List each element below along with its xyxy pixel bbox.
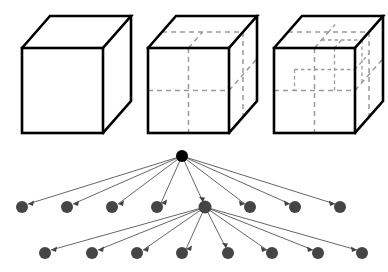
figure-root: [0, 0, 388, 272]
cube-level-1: [148, 16, 257, 133]
tree-node-l1-5[interactable]: [244, 201, 256, 213]
tree-node-l2-0[interactable]: [39, 247, 51, 259]
tree-node-l1-0[interactable]: [16, 201, 28, 213]
tree-edge-root-4: [182, 156, 203, 202]
tree-node-l1-1[interactable]: [61, 201, 73, 213]
tree-edge-branch-5: [205, 207, 267, 250]
tree-diagram-group: [16, 150, 368, 259]
cube-0-front-face: [22, 48, 103, 133]
tree-edge-branch-0: [51, 207, 205, 250]
cube-level-0: [22, 16, 131, 133]
cube-level-2: [274, 16, 383, 133]
tree-nodes-level-1: [16, 201, 346, 214]
tree-edge-root-7: [182, 156, 335, 204]
tree-edge-branch-6: [205, 207, 313, 250]
tree-node-l2-6[interactable]: [312, 247, 324, 259]
tree-node-root[interactable]: [176, 150, 188, 162]
tree-edge-root-3: [161, 156, 182, 203]
tree-edge-root-0: [28, 156, 182, 204]
tree-node-l1-4-branch[interactable]: [199, 201, 212, 214]
tree-node-l2-4[interactable]: [222, 247, 234, 259]
tree-node-l1-2[interactable]: [106, 201, 118, 213]
tree-node-l2-3[interactable]: [176, 247, 188, 259]
cube-row-group: [22, 16, 383, 133]
tree-node-l2-2[interactable]: [131, 247, 143, 259]
tree-node-l2-7[interactable]: [356, 247, 368, 259]
tree-node-l2-5[interactable]: [266, 247, 278, 259]
tree-nodes-level-2: [39, 247, 368, 259]
tree-node-l2-1[interactable]: [86, 247, 98, 259]
tree-node-l1-3[interactable]: [151, 201, 163, 213]
tree-arrowhead-b0: [51, 247, 57, 253]
tree-node-l1-6[interactable]: [289, 201, 301, 213]
tree-edge-branch-4: [205, 207, 226, 248]
octree-figure-svg: [0, 0, 388, 272]
tree-arrowheads-level-1: [28, 197, 335, 206]
tree-edges-level-1: [28, 156, 335, 204]
tree-edges-level-2: [51, 207, 357, 250]
tree-node-l1-7[interactable]: [334, 201, 346, 213]
tree-arrowhead-b7: [351, 247, 357, 253]
